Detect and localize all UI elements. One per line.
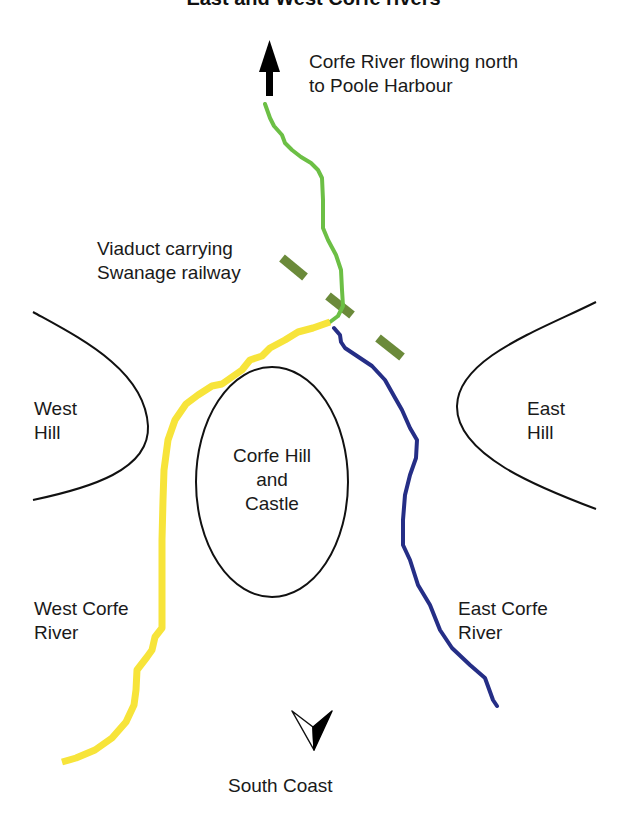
west-corfe-river-line <box>62 322 330 762</box>
castle-label-line3: Castle <box>222 492 322 516</box>
west-hill-label: West Hill <box>34 397 77 445</box>
compass-south-pointer-icon <box>292 711 332 750</box>
north-flow-label: Corfe River flowing north to Poole Harbo… <box>309 50 518 98</box>
castle-label-line2: and <box>222 468 322 492</box>
viaduct-label: Viaduct carrying Swanage railway <box>97 237 241 285</box>
east-river-label-line1: East Corfe <box>458 597 548 621</box>
east-hill-label-line2: Hill <box>527 421 565 445</box>
corfe-river-line <box>265 104 343 322</box>
east-corfe-river-line <box>334 328 497 706</box>
east-river-label-line2: River <box>458 621 548 645</box>
north-flow-label-line2: to Poole Harbour <box>309 74 518 98</box>
west-hill-label-line2: Hill <box>34 421 77 445</box>
west-river-label: West Corfe River <box>34 597 129 645</box>
west-river-label-line2: River <box>34 621 129 645</box>
south-coast-label: South Coast <box>228 774 333 798</box>
castle-label: Corfe Hill and Castle <box>222 444 322 516</box>
north-flow-label-line1: Corfe River flowing north <box>309 50 518 74</box>
east-river-label: East Corfe River <box>458 597 548 645</box>
west-river-label-line1: West Corfe <box>34 597 129 621</box>
east-hill-label-line1: East <box>527 397 565 421</box>
viaduct-label-line2: Swanage railway <box>97 261 241 285</box>
castle-label-line1: Corfe Hill <box>222 444 322 468</box>
east-hill-label: East Hill <box>527 397 565 445</box>
arrow-up-icon <box>259 40 280 96</box>
viaduct-label-line1: Viaduct carrying <box>97 237 241 261</box>
west-hill-label-line1: West <box>34 397 77 421</box>
